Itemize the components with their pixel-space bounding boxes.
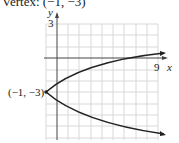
grid — [46, 24, 158, 140]
chart-plot — [0, 0, 179, 143]
x-tick-label: 9 — [154, 61, 160, 73]
vertex-point — [44, 90, 48, 94]
vertex-label: (−1, −3) — [8, 86, 44, 98]
y-tick-label: 3 — [48, 17, 54, 29]
x-axis-label: x — [167, 61, 172, 73]
parabola-curve — [46, 53, 164, 134]
